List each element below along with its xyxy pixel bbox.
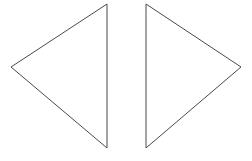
figure-canvas [0, 0, 252, 161]
figure-svg [0, 0, 252, 161]
canvas-background [0, 0, 252, 161]
